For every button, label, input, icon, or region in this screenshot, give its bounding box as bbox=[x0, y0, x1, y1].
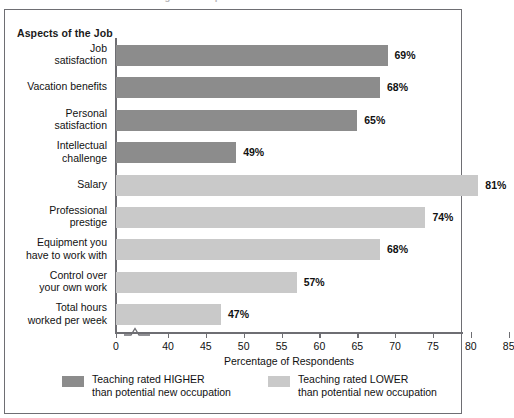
bar-lower bbox=[116, 207, 425, 228]
x-tick-mark bbox=[509, 332, 510, 338]
category-label: Salary bbox=[2, 178, 107, 190]
x-tick-label: 55 bbox=[276, 340, 288, 352]
bar-value-label: 69% bbox=[395, 49, 416, 61]
legend-label-higher: Teaching rated HIGHER than potential new… bbox=[92, 373, 231, 399]
top-cropped-caption: Teaching vs. Occupation bbox=[0, 0, 466, 9]
bar-value-label: 49% bbox=[243, 146, 264, 158]
x-tick-label: 70 bbox=[389, 340, 401, 352]
plot-area: Aspects of the Job Job satisfaction69%Va… bbox=[5, 10, 463, 340]
x-tick-label: 50 bbox=[238, 340, 250, 352]
x-tick-mark bbox=[244, 332, 245, 338]
category-label: Total hours worked per week bbox=[2, 301, 107, 326]
legend-item-lower: Teaching rated LOWER than potential new … bbox=[268, 373, 437, 399]
bar-value-label: 68% bbox=[387, 81, 408, 93]
top-cropped-caption-text: Teaching vs. Occupation bbox=[128, 0, 244, 2]
bar-row: Vacation benefits68% bbox=[5, 72, 463, 104]
bar-value-label: 81% bbox=[485, 179, 506, 191]
x-tick-mark bbox=[357, 332, 358, 338]
x-tick-mark bbox=[471, 332, 472, 338]
category-label: Job satisfaction bbox=[2, 42, 107, 67]
x-tick-label: 60 bbox=[314, 340, 326, 352]
bar-value-label: 65% bbox=[364, 114, 385, 126]
axis-break-icon bbox=[124, 326, 150, 338]
x-tick-label: 0 bbox=[113, 340, 119, 352]
x-tick-label: 65 bbox=[351, 340, 363, 352]
x-tick-mark bbox=[168, 332, 169, 338]
bar-value-label: 74% bbox=[432, 211, 453, 223]
x-tick-mark bbox=[116, 332, 117, 338]
bar-value-label: 57% bbox=[304, 276, 325, 288]
bar-lower bbox=[116, 304, 221, 325]
bar-lower bbox=[116, 272, 297, 293]
x-tick-label: 85 bbox=[503, 340, 514, 352]
bar-row: Intellectual challenge49% bbox=[5, 137, 463, 169]
x-tick-mark bbox=[206, 332, 207, 338]
bar-higher bbox=[116, 77, 380, 98]
bar-row: Job satisfaction69% bbox=[5, 40, 463, 72]
bar-lower bbox=[116, 239, 380, 260]
category-label: Personal satisfaction bbox=[2, 107, 107, 132]
x-tick-mark bbox=[319, 332, 320, 338]
legend-label-lower: Teaching rated LOWER than potential new … bbox=[298, 373, 437, 399]
x-tick-label: 40 bbox=[162, 340, 174, 352]
category-label: Professional prestige bbox=[2, 204, 107, 229]
x-tick-mark bbox=[395, 332, 396, 338]
bar-row: Equipment you have to work with68% bbox=[5, 234, 463, 266]
bar-higher bbox=[116, 45, 388, 66]
chart-legend: Teaching rated HIGHER than potential new… bbox=[5, 373, 463, 411]
bar-lower bbox=[116, 175, 478, 196]
category-label: Intellectual challenge bbox=[2, 139, 107, 164]
x-axis-title: Percentage of Respondents bbox=[115, 355, 463, 367]
chart-figure-frame: Aspects of the Job Job satisfaction69%Va… bbox=[4, 9, 462, 414]
bar-row: Professional prestige74% bbox=[5, 202, 463, 234]
x-tick-label: 80 bbox=[465, 340, 477, 352]
x-tick-mark bbox=[433, 332, 434, 338]
bar-row: Control over your own work57% bbox=[5, 267, 463, 299]
category-label: Equipment you have to work with bbox=[2, 236, 107, 261]
x-tick-label: 75 bbox=[427, 340, 439, 352]
bar-row: Salary81% bbox=[5, 170, 463, 202]
bar-value-label: 68% bbox=[387, 243, 408, 255]
legend-item-higher: Teaching rated HIGHER than potential new… bbox=[62, 373, 231, 399]
legend-swatch-higher-icon bbox=[62, 376, 84, 387]
category-axis-header: Aspects of the Job bbox=[17, 27, 113, 39]
x-tick-label: 45 bbox=[200, 340, 212, 352]
bar-value-label: 47% bbox=[228, 308, 249, 320]
category-label: Vacation benefits bbox=[2, 80, 107, 92]
bar-higher bbox=[116, 110, 357, 131]
x-tick-mark bbox=[282, 332, 283, 338]
bar-row: Personal satisfaction65% bbox=[5, 105, 463, 137]
legend-swatch-lower-icon bbox=[268, 376, 290, 387]
category-label: Control over your own work bbox=[2, 269, 107, 294]
bar-row: Total hours worked per week47% bbox=[5, 299, 463, 331]
bar-higher bbox=[116, 142, 236, 163]
